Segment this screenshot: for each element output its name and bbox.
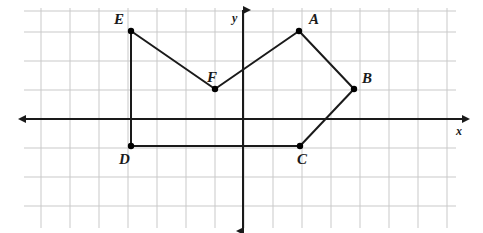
coordinate-plane-figure: ABCDEF x y <box>0 0 483 233</box>
vertex-label-c: C <box>297 151 308 167</box>
vertex-label-a: A <box>308 11 319 27</box>
vertex-point-b <box>351 86 357 92</box>
hexagon-edge-ab <box>299 31 354 89</box>
vertex-point-e <box>128 28 134 34</box>
vertex-label-d: D <box>118 151 130 167</box>
vertex-point-c <box>297 143 303 149</box>
y-axis-label: y <box>230 11 238 25</box>
vertex-label-e: E <box>113 11 124 27</box>
hexagon-edge-bc <box>300 89 354 146</box>
hexagon-edge-ef <box>131 31 215 89</box>
vertex-point-a <box>296 28 302 34</box>
x-axis-label: x <box>455 124 462 138</box>
vertex-point-f <box>212 86 218 92</box>
vertex-point-d <box>128 143 134 149</box>
vertex-label-b: B <box>361 70 372 86</box>
coordinate-plane-svg: ABCDEF x y <box>0 0 483 233</box>
hexagon-edge-fa <box>215 31 299 89</box>
vertex-label-f: F <box>206 69 217 85</box>
